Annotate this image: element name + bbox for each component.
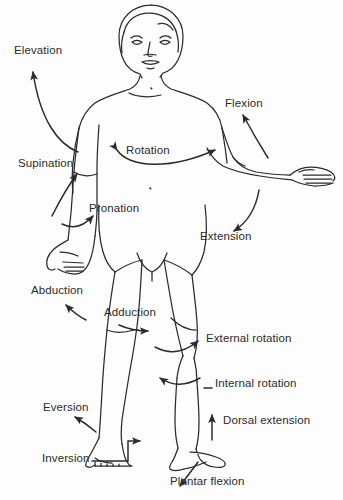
label-external-rotation: External rotation	[206, 333, 291, 345]
label-rotation: Rotation	[126, 145, 170, 157]
adduction-arrow	[119, 325, 148, 331]
label-pronation: Pronation	[89, 203, 139, 215]
right-arm-outline	[207, 128, 292, 180]
left-leg-outline	[99, 260, 142, 444]
label-internal-rotation: Internal rotation	[215, 378, 297, 390]
external-rotation-arrow	[155, 341, 198, 352]
left-foot-outline	[86, 438, 132, 467]
label-flexion: Flexion	[225, 98, 263, 110]
supination-arrow	[52, 174, 77, 216]
label-inversion: Inversion	[42, 453, 90, 465]
abduction-arrow	[66, 305, 86, 320]
label-supination: Supination	[18, 158, 73, 170]
internal-rotation-arrow	[160, 378, 200, 384]
pronation-arrow	[62, 216, 93, 227]
label-eversion: Eversion	[43, 402, 89, 414]
label-extension: Extension	[200, 231, 251, 243]
label-elevation: Elevation	[14, 45, 62, 57]
torso-outline	[72, 76, 227, 281]
diagram-canvas: Elevation Flexion Rotation Supination Pr…	[0, 0, 343, 500]
flexion-arrow	[243, 115, 268, 158]
label-plantar-flexion: Plantar flexion	[170, 476, 244, 488]
head-outline	[119, 5, 183, 78]
right-foot-outline	[170, 448, 226, 471]
label-dorsal-extension: Dorsal extension	[223, 415, 310, 427]
eversion-arrow	[75, 417, 96, 432]
right-hand-outline	[290, 167, 335, 186]
face-features	[131, 36, 171, 69]
label-adduction: Adduction	[104, 307, 156, 319]
left-hand-outline	[47, 236, 95, 274]
elevation-arrow	[33, 72, 78, 152]
left-arm-outline	[68, 125, 99, 240]
extension-arrow	[234, 190, 259, 231]
label-abduction: Abduction	[31, 285, 83, 297]
inversion-leader-arrow	[92, 441, 140, 461]
right-leg-outline	[164, 260, 199, 449]
